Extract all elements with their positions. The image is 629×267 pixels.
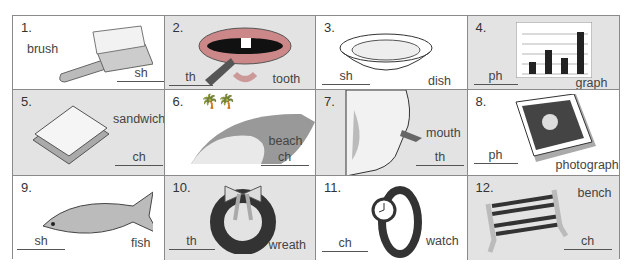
item-number: 2. xyxy=(173,20,184,35)
item-sandwich: 5. sandwich ch xyxy=(13,90,165,176)
item-word: mouth xyxy=(426,126,461,140)
item-fish: 9. sh fish xyxy=(13,176,165,260)
answer-blank[interactable]: ch xyxy=(322,238,368,252)
item-number: 11. xyxy=(324,180,341,195)
item-word: wreath xyxy=(269,238,307,252)
item-bench: 12. bench ch xyxy=(468,176,620,260)
item-word: dish xyxy=(428,74,451,88)
item-word: photograph xyxy=(556,158,619,172)
answer-blank[interactable]: sh xyxy=(17,236,65,250)
item-tooth: 2. th tooth xyxy=(165,16,317,90)
wreath-icon xyxy=(209,180,277,254)
item-graph: 4. ph graph xyxy=(468,16,620,90)
answer-blank[interactable]: th xyxy=(416,152,464,166)
answer-blank[interactable]: ch xyxy=(261,152,309,166)
phonics-worksheet-grid: 1. brush sh 2. th tooth 3. sh dish xyxy=(12,15,620,259)
item-number: 10. xyxy=(173,180,191,195)
park-bench-icon xyxy=(480,186,570,256)
item-word: fish xyxy=(131,236,150,250)
item-word: sandwich xyxy=(113,112,165,126)
item-dish: 3. sh dish xyxy=(316,16,468,90)
item-brush: 1. brush sh xyxy=(13,16,165,90)
item-watch: 11. ch watch xyxy=(316,176,468,260)
item-number: 3. xyxy=(324,20,335,35)
item-word: bench xyxy=(578,186,612,200)
svg-text:🌴🌴: 🌴🌴 xyxy=(201,93,235,110)
item-word: watch xyxy=(426,234,459,248)
bar-graph-icon xyxy=(516,22,592,78)
item-beach: 6. 🌴🌴 beach ch xyxy=(165,90,317,176)
item-number: 8. xyxy=(476,94,487,109)
item-number: 1. xyxy=(21,20,32,35)
item-word: tooth xyxy=(273,72,301,86)
item-number: 7. xyxy=(324,94,335,109)
answer-blank[interactable]: ch xyxy=(115,152,163,166)
item-word: beach xyxy=(269,134,303,148)
item-mouth: 7. mouth th xyxy=(316,90,468,176)
item-number: 9. xyxy=(21,180,32,195)
answer-blank[interactable]: th xyxy=(169,236,215,250)
item-photograph: 8. ph photograph xyxy=(468,90,620,176)
answer-blank[interactable]: th xyxy=(169,72,213,86)
item-wreath: 10. th wreath xyxy=(165,176,317,260)
fish-icon xyxy=(33,186,153,240)
item-word: graph xyxy=(576,76,608,90)
answer-blank[interactable]: ch xyxy=(564,236,612,250)
framed-photo-icon xyxy=(514,94,596,166)
wristwatch-icon xyxy=(370,184,424,258)
answer-blank[interactable]: ph xyxy=(474,150,518,164)
sandwich-icon xyxy=(23,104,113,166)
answer-blank[interactable]: sh xyxy=(322,71,370,85)
item-number: 4. xyxy=(476,20,487,35)
answer-blank[interactable]: ph xyxy=(474,71,518,85)
answer-blank[interactable]: sh xyxy=(117,68,165,82)
face-profile-icon xyxy=(336,90,426,176)
